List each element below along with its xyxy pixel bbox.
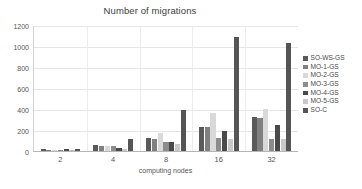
chart-container: Number of migrations 0200400600800100012… bbox=[0, 0, 362, 189]
x-axis-tick-label: 16 bbox=[215, 155, 223, 164]
bar bbox=[75, 149, 80, 151]
bar-group: 8 bbox=[140, 26, 193, 151]
x-axis-tick-label: 32 bbox=[267, 155, 275, 164]
bar bbox=[181, 110, 186, 151]
y-axis-tick-label: 400 bbox=[17, 107, 34, 114]
legend-item[interactable]: MO-1-GS bbox=[303, 64, 345, 71]
legend-item[interactable]: MO-2-GS bbox=[303, 72, 345, 79]
bar bbox=[99, 146, 104, 151]
chart-legend: SO-WS-GSMO-1-GSMO-2-GSMO-3-GSMO-4-GSMO-5… bbox=[303, 55, 345, 114]
bar bbox=[52, 150, 57, 151]
bar bbox=[175, 144, 180, 151]
y-axis-tick-label: 0 bbox=[25, 149, 34, 156]
bar bbox=[169, 142, 174, 151]
bar bbox=[58, 150, 63, 151]
bar-group: 2 bbox=[34, 26, 87, 151]
legend-swatch-icon bbox=[303, 91, 308, 96]
legend-swatch-icon bbox=[303, 82, 308, 87]
bar bbox=[105, 146, 110, 151]
bar-groups: 2481632 bbox=[34, 26, 298, 151]
legend-item[interactable]: MO-5-GS bbox=[303, 98, 345, 105]
legend-swatch-icon bbox=[303, 56, 308, 61]
y-axis-tick-label: 600 bbox=[17, 86, 34, 93]
legend-item-label: MO-1-GS bbox=[311, 64, 339, 71]
bar bbox=[263, 109, 268, 151]
bar bbox=[286, 43, 291, 151]
bar-group: 4 bbox=[87, 26, 140, 151]
y-axis-tick-label: 1200 bbox=[13, 23, 34, 30]
bar bbox=[234, 37, 239, 151]
legend-item[interactable]: MO-4-GS bbox=[303, 90, 345, 97]
bar bbox=[163, 142, 168, 151]
bar bbox=[93, 145, 98, 151]
x-axis-label: computing nodes bbox=[33, 167, 298, 174]
bar bbox=[41, 149, 46, 151]
y-axis-tick-label: 200 bbox=[17, 128, 34, 135]
bar bbox=[128, 139, 133, 151]
x-axis-tick-label: 8 bbox=[164, 155, 168, 164]
bar bbox=[158, 133, 163, 151]
bar bbox=[275, 125, 280, 151]
bar bbox=[216, 138, 221, 151]
legend-item-label: SO-C bbox=[311, 107, 327, 114]
legend-item-label: SO-WS-GS bbox=[311, 55, 345, 62]
bar-group: 16 bbox=[192, 26, 245, 151]
bar bbox=[228, 139, 233, 151]
legend-item[interactable]: SO-C bbox=[303, 107, 345, 114]
bar bbox=[281, 139, 286, 151]
bar bbox=[210, 113, 215, 151]
legend-item[interactable]: SO-WS-GS bbox=[303, 55, 345, 62]
legend-item-label: MO-3-GS bbox=[311, 81, 339, 88]
bar-group: 32 bbox=[245, 26, 298, 151]
legend-swatch-icon bbox=[303, 65, 308, 70]
x-axis-tick-label: 2 bbox=[58, 155, 62, 164]
bar bbox=[46, 150, 51, 151]
bar bbox=[111, 146, 116, 151]
bar bbox=[146, 138, 151, 151]
bar bbox=[64, 149, 69, 151]
bar bbox=[257, 118, 262, 151]
chart-title: Number of migrations bbox=[0, 5, 300, 16]
bar bbox=[222, 131, 227, 151]
legend-swatch-icon bbox=[303, 73, 308, 78]
x-axis-tick-label: 4 bbox=[111, 155, 115, 164]
plot-area: 020040060080010001200 2481632 bbox=[33, 26, 298, 152]
bar bbox=[199, 127, 204, 151]
legend-item-label: MO-5-GS bbox=[311, 98, 339, 105]
bar bbox=[116, 148, 121, 151]
y-axis-tick-label: 800 bbox=[17, 65, 34, 72]
legend-swatch-icon bbox=[303, 108, 308, 113]
bar bbox=[252, 117, 257, 151]
bar bbox=[122, 149, 127, 151]
legend-item[interactable]: MO-3-GS bbox=[303, 81, 345, 88]
bar bbox=[152, 139, 157, 151]
bar bbox=[205, 127, 210, 151]
legend-item-label: MO-4-GS bbox=[311, 90, 339, 97]
y-axis-tick-label: 1000 bbox=[13, 44, 34, 51]
bar bbox=[69, 150, 74, 151]
bar bbox=[269, 139, 274, 151]
legend-item-label: MO-2-GS bbox=[311, 72, 339, 79]
legend-swatch-icon bbox=[303, 99, 308, 104]
